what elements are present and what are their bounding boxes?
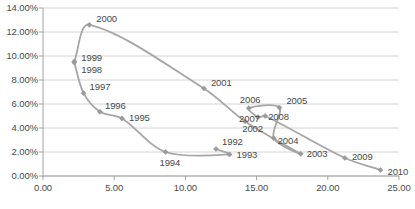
- trajectory-line: [74, 25, 380, 170]
- y-tick-label-4: 8.00%: [0, 74, 38, 85]
- data-point-marker-1994: [163, 149, 168, 154]
- y-tick-label-7: 14.00%: [0, 2, 38, 13]
- point-label-2002: 2002: [242, 124, 263, 134]
- x-tick-label-1: 5.00: [89, 182, 139, 193]
- y-tick-label-5: 10.00%: [0, 50, 38, 61]
- point-label-1994: 1994: [159, 158, 180, 168]
- x-tick-label-5: 25.00: [374, 182, 415, 193]
- point-label-2008: 2008: [268, 112, 289, 122]
- y-tick-label-6: 12.00%: [0, 26, 38, 37]
- y-tick-label-0: 0.00%: [0, 170, 38, 181]
- point-label-1993: 1993: [237, 150, 258, 160]
- data-point-marker-2010: [378, 167, 383, 172]
- point-label-1997: 1997: [90, 82, 111, 92]
- point-label-1996: 1996: [105, 101, 126, 111]
- x-tick-label-0: 0.00: [18, 182, 68, 193]
- point-label-1999: 1999: [81, 53, 102, 63]
- point-label-1992: 1992: [222, 137, 243, 147]
- point-label-2007: 2007: [239, 114, 260, 124]
- y-tick-label-1: 2.00%: [0, 146, 38, 157]
- series-markers: [72, 22, 383, 172]
- point-label-2005: 2005: [286, 96, 307, 106]
- x-tick-label-2: 10.00: [160, 182, 210, 193]
- data-point-marker-2006: [246, 106, 251, 111]
- point-label-2006: 2006: [240, 95, 261, 105]
- series-line-path: [74, 25, 380, 170]
- data-point-marker-2000: [87, 22, 92, 27]
- point-label-1998: 1998: [81, 65, 102, 75]
- point-label-2004: 2004: [278, 136, 299, 146]
- data-point-marker-1992: [213, 146, 218, 151]
- point-label-2010: 2010: [387, 167, 408, 177]
- y-tick-label-2: 4.00%: [0, 122, 38, 133]
- point-label-1995: 1995: [129, 113, 150, 123]
- point-label-2000: 2000: [96, 14, 117, 24]
- point-label-2003: 2003: [307, 149, 328, 159]
- x-tick-label-4: 20.00: [303, 182, 353, 193]
- y-tick-label-3: 6.00%: [0, 98, 38, 109]
- point-label-2009: 2009: [352, 152, 373, 162]
- x-tick-label-3: 15.00: [232, 182, 282, 193]
- point-label-2001: 2001: [211, 78, 232, 88]
